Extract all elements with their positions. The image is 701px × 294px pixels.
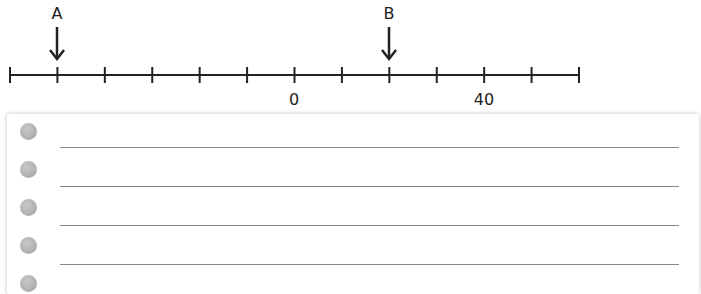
writing-line[interactable]	[60, 147, 679, 148]
binder-hole	[20, 123, 37, 140]
marker-a-label: A	[52, 4, 63, 23]
binder-hole	[20, 237, 37, 254]
marker-b: B	[382, 4, 396, 59]
binder-hole	[20, 275, 37, 292]
answer-paper	[7, 114, 699, 294]
writing-line[interactable]	[60, 186, 679, 187]
binder-hole	[20, 161, 37, 178]
marker-b-label: B	[384, 4, 395, 23]
tick-label-0: 0	[289, 90, 299, 109]
tick-label-40: 40	[474, 90, 494, 109]
writing-line[interactable]	[60, 264, 679, 265]
binder-hole	[20, 199, 37, 216]
marker-a: A	[50, 4, 64, 59]
number-line: A B 0 40	[0, 0, 701, 112]
writing-line[interactable]	[60, 225, 679, 226]
